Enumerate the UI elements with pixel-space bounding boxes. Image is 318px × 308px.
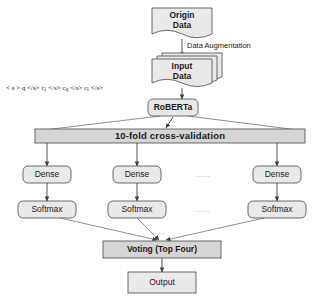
- diagram-connectors: [0, 0, 318, 308]
- edge-softmax-to-voting-1: [60, 218, 157, 240]
- edge-roberta-to-cv-right: [188, 116, 298, 130]
- token-sub-2: q: [66, 86, 69, 92]
- diagram-canvas: Origin Data Data Augmentation Input Data…: [0, 0, 318, 308]
- roberta-shape: [148, 99, 198, 116]
- token-part-1: < s > q </s> r: [6, 84, 44, 92]
- token-part-2: </s> c: [46, 84, 65, 92]
- token-sub-1: 1: [44, 86, 47, 92]
- dense-box-2: [113, 166, 161, 183]
- dense-row-ellipsis: ......: [195, 171, 210, 178]
- edge-roberta-to-cv-left: [44, 116, 160, 130]
- token-part-3: </s> c: [68, 84, 87, 92]
- token-sub-3: i: [87, 86, 88, 92]
- softmax-box-1: [18, 201, 76, 218]
- softmax-box-3: [248, 201, 306, 218]
- softmax-box-2: [108, 201, 166, 218]
- token-sequence-label: < s > q </s> r1 </s> cq </s> ci </s>: [6, 84, 103, 92]
- data-augmentation-label: Data Augmentation: [187, 41, 251, 50]
- origin-data-shape: [152, 8, 212, 38]
- dense-box-1: [23, 166, 71, 183]
- output-shape: [128, 272, 196, 293]
- dense-box-3: [253, 166, 301, 183]
- edge-roberta-to-cv-center: [166, 117, 173, 128]
- edge-softmax-to-voting-3: [166, 218, 264, 240]
- cross-validation-shape: [35, 129, 305, 143]
- voting-shape: [103, 241, 221, 258]
- input-data-shape-front: [152, 59, 212, 87]
- voting-fanin-ellipsis: ......: [150, 228, 165, 235]
- token-part-4: </s>: [89, 84, 103, 92]
- softmax-row-ellipsis: ......: [195, 206, 210, 213]
